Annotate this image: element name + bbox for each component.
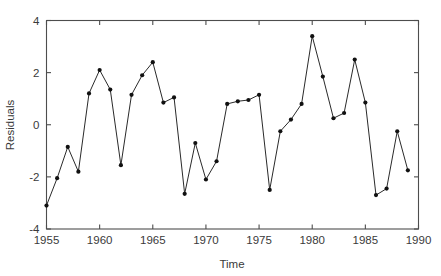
data-point	[331, 116, 335, 120]
data-point	[385, 187, 389, 191]
data-point	[161, 101, 165, 105]
x-tick-label: 1955	[34, 234, 60, 246]
data-point	[140, 73, 144, 77]
x-tick-label: 1990	[406, 234, 432, 246]
residuals-time-chart: 19551960196519701975198019851990 -4-2024…	[0, 0, 441, 276]
data-point	[353, 57, 357, 61]
y-tick-label: 4	[33, 15, 40, 27]
y-axis-title: Residuals	[4, 100, 16, 151]
data-point	[321, 74, 325, 78]
data-point	[257, 93, 261, 97]
data-point	[406, 168, 410, 172]
data-point	[214, 159, 218, 163]
data-point	[87, 91, 91, 95]
x-tick-label: 1970	[193, 234, 219, 246]
data-point	[76, 170, 80, 174]
data-point	[108, 87, 112, 91]
data-point	[278, 129, 282, 133]
x-tick-label: 1975	[246, 234, 272, 246]
y-tick-label: 2	[33, 67, 39, 79]
x-tick-label: 1980	[299, 234, 325, 246]
data-point	[98, 68, 102, 72]
data-point	[183, 192, 187, 196]
data-point	[151, 60, 155, 64]
data-point	[395, 129, 399, 133]
x-tick-label: 1960	[87, 234, 113, 246]
data-point	[129, 93, 133, 97]
data-point	[44, 203, 48, 207]
data-point	[66, 145, 70, 149]
data-point	[119, 163, 123, 167]
data-point	[363, 101, 367, 105]
data-point	[310, 34, 314, 38]
y-tick-label: 0	[33, 119, 39, 131]
data-point	[204, 177, 208, 181]
data-point	[299, 102, 303, 106]
data-point	[374, 193, 378, 197]
chart-canvas: 19551960196519701975198019851990 -4-2024…	[0, 0, 441, 276]
data-point	[225, 102, 229, 106]
y-tick-label: -2	[29, 171, 39, 183]
data-point	[289, 117, 293, 121]
data-point	[268, 188, 272, 192]
x-tick-label: 1965	[140, 234, 166, 246]
data-point	[342, 111, 346, 115]
data-point	[172, 95, 176, 99]
data-point	[55, 176, 59, 180]
x-axis-title: Time	[219, 258, 244, 270]
y-tick-label: -4	[29, 223, 40, 235]
data-point	[193, 141, 197, 145]
x-tick-label: 1985	[353, 234, 379, 246]
data-point	[246, 98, 250, 102]
data-point	[236, 99, 240, 103]
